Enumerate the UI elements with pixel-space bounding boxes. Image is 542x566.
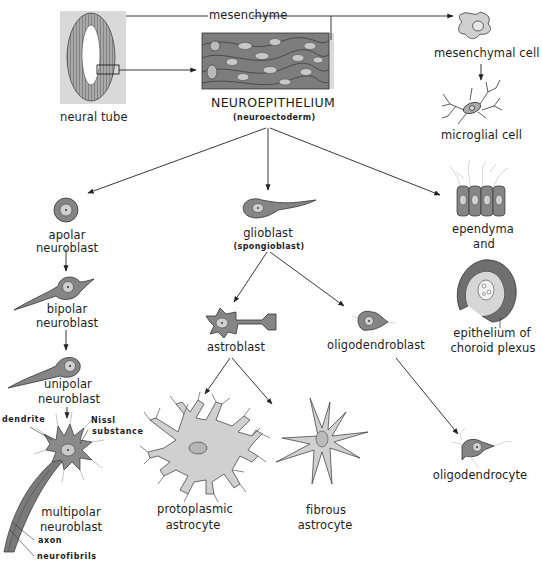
annotation-nissl-substance: substance [92,427,143,437]
protoplasmic-astrocyte-figure [140,392,270,502]
label-astroblast: astroblast [204,340,268,354]
label-multipolar-neuroblast: neuroblast [38,520,104,534]
neuroepithelium-figure [202,33,334,89]
label-neuroepithelium: NEUROEPITHELIUM [211,96,335,110]
label-oligodendrocyte: oligodendrocyte [430,468,530,482]
label-spongioblast: (spongioblast) [232,242,306,252]
mesenchymal-cell-figure [459,12,491,39]
glioblast-figure [243,199,316,218]
branch-arrows [88,128,440,195]
label-microglial-cell: microglial cell [441,128,522,142]
choroid-plexus-figure [457,260,516,328]
label-mesenchyme: mesenchyme [209,8,287,22]
label-apolar-neuroblast: neuroblast [34,241,100,255]
annotation-dendrite: dendrite [2,415,45,425]
label-mesenchymal-cell: mesenchymal cell [434,46,540,60]
glioblast-arrows [234,252,344,306]
label-neural-tube: neural tube [60,110,128,124]
label-glioblast: glioblast [238,226,298,240]
dendrite-pointer [30,427,52,440]
label-ependyma: ependyma [448,222,518,236]
label-epithelium-of: epithelium of [450,326,534,340]
ependyma-figure [450,160,508,216]
label-unipolar-neuroblast: neuroblast [36,392,102,406]
label-unipolar: unipolar [38,377,98,391]
annotation-axon: axon [38,536,62,546]
microglial-cell-figure [442,80,502,124]
label-choroid-plexus: choroid plexus [446,341,540,355]
label-oligodendroblast: oligodendroblast [326,338,426,352]
apolar-neuroblast-figure [54,198,78,222]
label-protoplasmic: protoplasmic [150,502,240,516]
label-fibrous: fibrous [296,503,356,517]
oligodendrocyte-figure [452,428,512,468]
label-fibrous-astrocyte: astrocyte [290,518,360,532]
oligodendroblast-figure [352,311,395,330]
label-neuroectoderm: (neuroectoderm) [233,113,316,123]
multipolar-neuroblast-figure [4,412,104,556]
label-bipolar-neuroblast: neuroblast [34,316,100,330]
oligodendroblast-to-oligodendrocyte-arrow [396,358,458,434]
annotation-nissl: Nissl [91,416,116,426]
neural-tube-figure [60,11,126,104]
label-multipolar: multipolar [36,505,106,519]
annotation-neurofibrils: neurofibrils [37,552,97,562]
label-apolar: apolar [44,228,90,242]
label-and: and [464,237,504,251]
astroblast-arrows [205,358,272,404]
label-bipolar: bipolar [44,302,90,316]
label-protoplasmic-astrocyte: astrocyte [158,518,228,532]
astroblast-figure [206,308,276,338]
fibrous-astrocyte-figure [276,398,368,484]
